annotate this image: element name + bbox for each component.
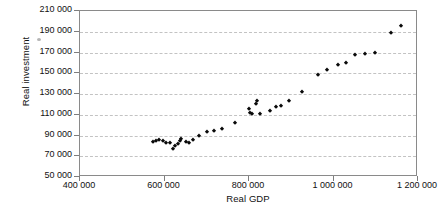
x-axis-tick-label: 1 000 000 <box>312 180 352 190</box>
scan-artifact-smudge <box>37 38 41 41</box>
y-axis-tick-mark <box>74 93 79 94</box>
data-point <box>279 104 284 109</box>
y-axis-tick-label: 70 000 <box>20 149 72 159</box>
x-axis-tick-label: 400 000 <box>63 180 96 190</box>
y-axis-tick-mark <box>74 135 79 136</box>
data-point <box>197 133 202 138</box>
y-axis-tick-label: 170 000 <box>20 46 72 56</box>
y-axis-tick-mark <box>74 31 79 32</box>
y-axis-tick-mark <box>74 52 79 53</box>
x-axis-tick-label: 1 200 000 <box>397 180 437 190</box>
data-point <box>255 99 260 104</box>
y-axis-tick-mark <box>74 72 79 73</box>
y-axis-tick-mark <box>74 114 79 115</box>
data-point <box>343 60 348 65</box>
data-point <box>315 73 320 78</box>
y-axis-tick-label: 90 000 <box>20 129 72 139</box>
data-point <box>372 50 377 55</box>
data-point <box>287 99 292 104</box>
data-point <box>179 136 184 141</box>
y-axis-tick-mark <box>74 155 79 156</box>
data-point <box>220 127 225 132</box>
y-axis-tick-mark <box>74 10 79 11</box>
gridline-horizontal <box>80 32 416 33</box>
gridline-horizontal <box>80 156 416 157</box>
data-point <box>388 30 393 35</box>
x-axis-tick-label: 600 000 <box>147 180 180 190</box>
data-point <box>190 137 195 142</box>
y-axis-tick-label: 50 000 <box>20 170 72 180</box>
data-point <box>212 129 217 134</box>
data-point <box>233 121 238 126</box>
x-axis-tick-label: 800 000 <box>232 180 265 190</box>
data-point <box>204 130 209 135</box>
gridline-horizontal <box>80 136 416 137</box>
gridline-horizontal <box>80 73 416 74</box>
y-axis-tick-label: 150 000 <box>20 66 72 76</box>
data-point <box>398 23 403 28</box>
data-point <box>267 108 272 113</box>
y-axis-tick-label: 210 000 <box>20 4 72 14</box>
data-point <box>186 140 191 145</box>
gridline-horizontal <box>80 115 416 116</box>
x-axis-title: Real GDP <box>79 193 417 204</box>
y-axis-tick-label: 130 000 <box>20 87 72 97</box>
gridline-horizontal <box>80 94 416 95</box>
plot-area <box>79 10 417 176</box>
data-point <box>324 68 329 73</box>
y-axis-tick-label: 190 000 <box>20 25 72 35</box>
scatter-chart: Real investment 50 00070 00090 000110 00… <box>0 0 446 215</box>
y-axis-tick-label: 110 000 <box>20 108 72 118</box>
data-point <box>335 63 340 68</box>
data-point <box>168 140 173 145</box>
